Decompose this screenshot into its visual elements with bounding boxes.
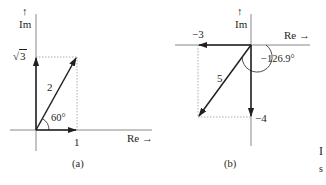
panel-a [10,14,152,151]
cropped-text-line-2: s [319,164,323,174]
magnitude-label-a: 2 [47,82,53,93]
caption-b: (b) [224,159,236,170]
imag-tick-label-b: −4 [255,113,267,124]
magnitude-label-b: 5 [217,73,223,84]
angle-label-a: 60° [51,113,66,124]
radicand: 3 [19,49,27,62]
angle-arc-a [43,119,50,130]
imag-tick-label-a: √3 [13,51,27,62]
real-tick-label-a: 1 [74,137,80,148]
imag-axis-label-a: Im [19,19,31,30]
phasor-arrow-b [199,45,251,116]
imag-axis-arrow-a: ↑ [22,6,28,17]
real-axis-label-a: Re → [127,133,153,144]
imag-axis-label-b: Im [235,19,247,30]
caption-a: (a) [72,159,84,170]
cropped-text-line-1: I [319,145,323,157]
real-tick-label-b: −3 [192,29,204,40]
imag-axis-arrow-b: ↑ [237,6,243,17]
real-axis-label-b: Re → [284,30,310,41]
angle-label-b: −126.9° [261,54,295,65]
